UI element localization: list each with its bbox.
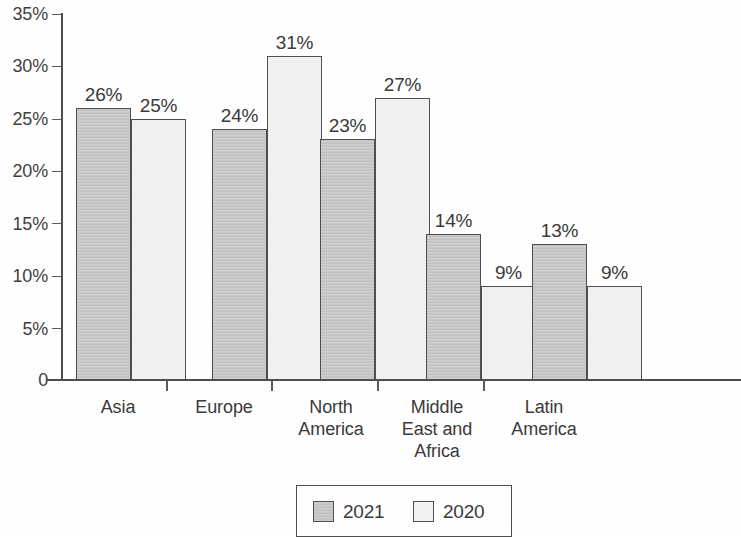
y-tick-label-5: 5%: [0, 320, 48, 338]
legend-label-2020: 2020: [443, 502, 484, 521]
y-tick-label-text: 20%: [0, 162, 48, 180]
bar-asia-2020: [131, 119, 186, 380]
bar-value-latin-america-2021: 13%: [532, 221, 587, 240]
x-tick-mark: [166, 380, 168, 391]
x-axis-label-north-america: North America: [271, 396, 391, 440]
x-tick-mark: [483, 380, 485, 391]
legend-swatch-2020-icon: [413, 501, 434, 522]
bar-value-europe-2020: 31%: [267, 33, 322, 52]
x-axis-label-latin-america: Latin America: [484, 396, 604, 440]
x-tick-mark: [271, 380, 273, 391]
y-tick-label-text: 30%: [0, 57, 48, 75]
y-tick-label-35: 35%: [0, 5, 48, 23]
bar-value-asia-2020: 25%: [131, 96, 186, 115]
x-axis-label-europe: Europe: [164, 396, 284, 418]
bar-latin-america-2020: [587, 286, 642, 380]
bar-middle-east-and-africa-2021: [426, 234, 481, 380]
y-tick-label-text: 5%: [0, 320, 48, 338]
bar-value-middle-east-and-africa-2020: 9%: [481, 263, 536, 282]
y-tick-label-20: 20%: [0, 162, 48, 180]
y-tick-label-30: 30%: [0, 57, 48, 75]
bar-north-america-2020: [375, 98, 430, 380]
x-axis-label-middle-east-and-africa: Middle East and Africa: [377, 396, 497, 462]
bar-value-europe-2021: 24%: [212, 106, 267, 125]
bar-middle-east-and-africa-2020: [481, 286, 536, 380]
y-tick-label-10: 10%: [0, 267, 48, 285]
y-tick-label-text: 35%: [0, 5, 48, 23]
bar-latin-america-2021: [532, 244, 587, 380]
y-tick-label-text: 15%: [0, 215, 48, 233]
legend-swatch-2021-icon: [313, 501, 334, 522]
chart-legend: 2021 2020: [296, 485, 512, 537]
x-tick-mark: [377, 380, 379, 391]
bar-value-middle-east-and-africa-2021: 14%: [426, 211, 481, 230]
legend-label-2021: 2021: [343, 502, 384, 521]
bar-europe-2020: [267, 56, 322, 380]
bar-value-latin-america-2020: 9%: [587, 263, 642, 282]
legend-item-2021[interactable]: 2021: [313, 498, 384, 524]
y-tick-label-0: 0: [0, 371, 48, 389]
y-tick-label-text: 25%: [0, 110, 48, 128]
plot-area: [62, 14, 741, 380]
y-tick-label-text: 10%: [0, 267, 48, 285]
bar-value-north-america-2021: 23%: [320, 116, 375, 135]
x-axis-label-asia: Asia: [58, 396, 178, 418]
legend-item-2020[interactable]: 2020: [413, 498, 484, 524]
y-tick-label-15: 15%: [0, 215, 48, 233]
bar-europe-2021: [212, 129, 267, 380]
y-tick-label-25: 25%: [0, 110, 48, 128]
bar-asia-2021: [76, 108, 131, 380]
bar-north-america-2021: [320, 139, 375, 380]
y-tick-label-text: 0: [0, 371, 48, 389]
bar-value-north-america-2020: 27%: [375, 75, 430, 94]
bar-value-asia-2021: 26%: [76, 85, 131, 104]
